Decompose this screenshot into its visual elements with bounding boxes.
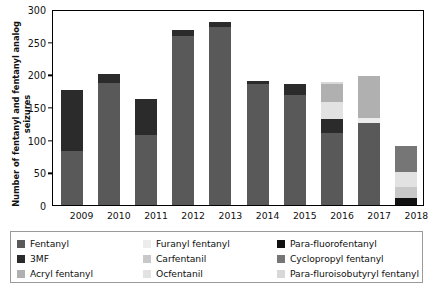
bar-segment	[321, 84, 343, 102]
bar-2016	[321, 82, 343, 205]
legend-item: Acryl fentanyl	[17, 268, 143, 279]
bar-segment	[135, 135, 157, 205]
y-axis-tickmark	[48, 107, 53, 108]
legend-swatch-icon	[143, 270, 151, 278]
bar-segment	[209, 27, 231, 205]
bar-segment	[395, 146, 417, 173]
y-axis-tick-300: 300	[5, 5, 46, 16]
x-axis-label-2018: 2018	[394, 210, 433, 221]
y-axis-tickmark	[48, 42, 53, 43]
y-axis-tickmark	[48, 173, 53, 174]
legend-item: Cyclopropyl fentanyl	[277, 253, 419, 264]
y-axis-tick-150: 150	[5, 103, 46, 114]
chart-figure: Number of fentanyl and fentanyl analog s…	[0, 0, 433, 291]
legend-label: Para-fluroisobutyryl fentanyl	[290, 268, 419, 279]
y-axis-title-line-1: Number of fentanyl and fentanyl analog	[11, 21, 21, 207]
bar-segment	[358, 76, 380, 118]
bar-segment	[321, 133, 343, 205]
legend-label: Cyclopropyl fentanyl	[290, 253, 384, 264]
bar-segment	[98, 74, 120, 84]
y-axis-tick-100: 100	[5, 135, 46, 146]
legend-label: 3MF	[30, 253, 49, 264]
legend-item: Fentanyl	[17, 238, 143, 249]
bar-segment	[284, 95, 306, 205]
bar-segment	[358, 123, 380, 205]
y-axis-tickmark	[48, 140, 53, 141]
y-axis-tick-50: 50	[5, 168, 46, 179]
legend-label: Furanyl fentanyl	[156, 238, 230, 249]
bar-2015	[284, 84, 306, 205]
legend-swatch-icon	[277, 255, 285, 263]
legend-swatch-icon	[17, 255, 25, 263]
bar-segment	[395, 172, 417, 186]
bar-2018	[395, 146, 417, 205]
bar-segment	[61, 90, 83, 151]
y-axis-tickmark	[48, 75, 53, 76]
bar-2009	[61, 90, 83, 205]
legend-label: Acryl fentanyl	[30, 268, 93, 279]
bar-segment	[321, 119, 343, 133]
plot-inner	[53, 11, 423, 205]
legend-label: Fentanyl	[30, 238, 69, 249]
bar-2011	[135, 99, 157, 205]
bar-segment	[321, 102, 343, 118]
legend-item: 3MF	[17, 253, 143, 264]
legend-swatch-icon	[17, 240, 25, 248]
bar-segment	[135, 99, 157, 136]
legend-label: Para-fluorofentanyl	[290, 238, 377, 249]
legend-swatch-icon	[17, 270, 25, 278]
plot-area	[52, 10, 424, 206]
bar-segment	[395, 187, 417, 199]
legend-item: Carfentanil	[143, 253, 277, 264]
bar-segment	[395, 198, 417, 205]
legend-label: Ocfentanil	[156, 268, 203, 279]
legend-swatch-icon	[143, 240, 151, 248]
y-axis-title-line-2: seizures	[22, 95, 32, 133]
legend-item: Para-fluorofentanyl	[277, 238, 419, 249]
bar-2013	[209, 22, 231, 205]
legend-swatch-icon	[143, 255, 151, 263]
bar-segment	[284, 84, 306, 95]
legend-swatch-icon	[277, 240, 285, 248]
bar-2010	[98, 74, 120, 205]
y-axis-tick-0: 0	[5, 201, 46, 212]
bar-segment	[172, 36, 194, 205]
y-axis-tick-250: 250	[5, 37, 46, 48]
legend-label: Carfentanil	[156, 253, 206, 264]
bar-2014	[247, 81, 269, 205]
legend-item: Furanyl fentanyl	[143, 238, 277, 249]
bar-2012	[172, 30, 194, 205]
bar-segment	[247, 84, 269, 205]
bar-segment	[61, 151, 83, 205]
legend-item: Para-fluroisobutyryl fentanyl	[277, 268, 419, 279]
bar-2017	[358, 76, 380, 205]
legend-item: Ocfentanil	[143, 268, 277, 279]
chart-legend: FentanylFuranyl fentanylPara-fluorofenta…	[10, 231, 423, 283]
y-axis-tick-200: 200	[5, 70, 46, 81]
legend-swatch-icon	[277, 270, 285, 278]
bar-segment	[98, 83, 120, 205]
